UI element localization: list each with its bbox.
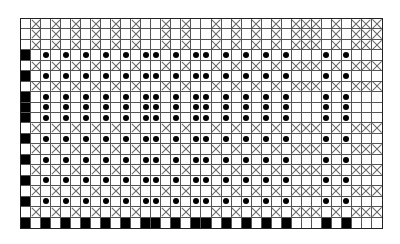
- grid-cell-black: [41, 218, 51, 228]
- grid-cell-x: [312, 61, 322, 71]
- grid-cell-empty: [352, 176, 362, 186]
- grid-cell-empty: [292, 155, 302, 165]
- grid-cell-x: [292, 82, 302, 92]
- grid-cell-empty: [141, 165, 151, 175]
- grid-cell-empty: [282, 61, 292, 71]
- grid-cell-x: [332, 82, 342, 92]
- grid-cell-empty: [362, 134, 372, 144]
- grid-cell-x: [372, 61, 382, 71]
- grid-cell-dot: [171, 134, 181, 144]
- grid-cell-empty: [372, 103, 382, 113]
- grid-cell-x: [292, 207, 302, 217]
- grid-cell-empty: [21, 40, 31, 50]
- grid-cell-empty: [212, 197, 222, 207]
- grid-cell-x: [252, 123, 262, 133]
- grid-cell-x: [352, 82, 362, 92]
- grid-cell-empty: [151, 61, 161, 71]
- grid-cell-x: [161, 40, 171, 50]
- grid-cell-dot: [121, 113, 131, 123]
- grid-cell-empty: [232, 134, 242, 144]
- grid-cell-empty: [322, 29, 332, 39]
- grid-cell-empty: [322, 19, 332, 29]
- grid-cell-empty: [262, 40, 272, 50]
- grid-cell-x: [161, 61, 171, 71]
- grid-cell-black: [262, 218, 272, 228]
- grid-cell-dot: [101, 50, 111, 60]
- grid-cell-x: [91, 61, 101, 71]
- grid-cell-dot: [151, 197, 161, 207]
- grid-cell-x: [292, 144, 302, 154]
- grid-cell-empty: [362, 71, 372, 81]
- grid-cell-dot: [191, 113, 201, 123]
- grid-cell-dot: [141, 92, 151, 102]
- grid-cell-x: [31, 165, 41, 175]
- grid-cell-dot: [191, 197, 201, 207]
- grid-cell-empty: [262, 186, 272, 196]
- grid-cell-dot: [81, 197, 91, 207]
- grid-cell-empty: [151, 186, 161, 196]
- grid-cell-empty: [212, 155, 222, 165]
- grid-cell-empty: [61, 40, 71, 50]
- grid-cell-dot: [282, 176, 292, 186]
- grid-cell-x: [372, 40, 382, 50]
- grid-cell-x: [362, 19, 372, 29]
- grid-cell-x: [302, 165, 312, 175]
- grid-cell-empty: [161, 155, 171, 165]
- grid-cell-black: [21, 155, 31, 165]
- grid-cell-dot: [322, 103, 332, 113]
- grid-cell-empty: [242, 186, 252, 196]
- grid-cell-empty: [342, 186, 352, 196]
- grid-cell-empty: [372, 134, 382, 144]
- grid-cell-empty: [81, 144, 91, 154]
- grid-cell-dot: [41, 50, 51, 60]
- grid-cell-empty: [91, 113, 101, 123]
- grid-cell-black: [21, 92, 31, 102]
- grid-cell-dot: [201, 103, 211, 113]
- grid-cell-x: [312, 207, 322, 217]
- grid-cell-dot: [101, 113, 111, 123]
- grid-cell-x: [352, 186, 362, 196]
- grid-cell-empty: [191, 165, 201, 175]
- grid-cell-x: [232, 165, 242, 175]
- grid-cell-empty: [372, 218, 382, 228]
- grid-cell-empty: [101, 165, 111, 175]
- grid-cell-x: [272, 19, 282, 29]
- grid-cell-empty: [101, 61, 111, 71]
- grid-cell-empty: [71, 218, 81, 228]
- grid-cell-empty: [332, 134, 342, 144]
- grid-cell-x: [212, 123, 222, 133]
- grid-cell-dot: [141, 155, 151, 165]
- grid-cell-empty: [191, 207, 201, 217]
- grid-cell-x: [362, 186, 372, 196]
- grid-cell-empty: [212, 113, 222, 123]
- grid-cell-empty: [352, 103, 362, 113]
- grid-cell-empty: [352, 197, 362, 207]
- grid-cell-empty: [292, 134, 302, 144]
- grid-cell-x: [181, 61, 191, 71]
- grid-cell-empty: [212, 218, 222, 228]
- grid-cell-empty: [31, 113, 41, 123]
- grid-cell-x: [312, 165, 322, 175]
- grid-cell-empty: [141, 61, 151, 71]
- grid-cell-x: [302, 40, 312, 50]
- grid-cell-empty: [151, 207, 161, 217]
- grid-cell-dot: [41, 155, 51, 165]
- grid-cell-dot: [322, 50, 332, 60]
- grid-cell-empty: [41, 123, 51, 133]
- grid-cell-empty: [362, 103, 372, 113]
- grid-cell-x: [71, 61, 81, 71]
- grid-cell-empty: [151, 82, 161, 92]
- grid-cell-dot: [191, 71, 201, 81]
- grid-cell-empty: [181, 176, 191, 186]
- grid-cell-dot: [342, 50, 352, 60]
- grid-cell-empty: [262, 165, 272, 175]
- grid-cell-dot: [282, 134, 292, 144]
- grid-cell-empty: [131, 134, 141, 144]
- grid-cell-dot: [222, 155, 232, 165]
- grid-cell-empty: [161, 176, 171, 186]
- grid-cell-dot: [141, 103, 151, 113]
- grid-cell-black: [191, 218, 201, 228]
- grid-cell-empty: [41, 29, 51, 39]
- grid-cell-x: [212, 144, 222, 154]
- grid-cell-x: [362, 40, 372, 50]
